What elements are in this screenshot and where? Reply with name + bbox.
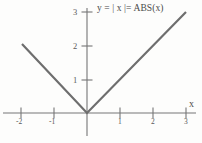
y-tick-label-2: 2 [73, 42, 77, 51]
x-axis-label: x [189, 99, 194, 109]
y-tick-label-3: 3 [73, 8, 77, 17]
x-tick-label-neg2: -2 [16, 118, 22, 126]
plot-area [0, 0, 202, 143]
absolute-value-graph-figure: -2 -1 1 2 3 1 2 3 x y = | x |= ABS(x) [0, 0, 202, 143]
abs-value-curve [22, 12, 186, 113]
y-tick-label-1: 1 [73, 76, 77, 85]
x-tick-label-1: 1 [118, 118, 122, 126]
x-tick-label-neg1: -1 [49, 118, 55, 126]
equation-annotation: y = | x |= ABS(x) [97, 4, 164, 14]
x-tick-label-3: 3 [184, 118, 188, 126]
x-tick-label-2: 2 [151, 118, 155, 126]
